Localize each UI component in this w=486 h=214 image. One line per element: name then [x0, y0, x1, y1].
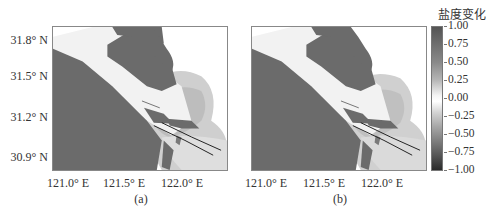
salinity-map-b: [252, 27, 426, 170]
y-tick-label: 31.8° N: [0, 33, 48, 48]
map-panel-b: [251, 26, 427, 171]
colorbar-tick: −0.25: [444, 109, 475, 121]
salinity-map-a: [53, 27, 227, 170]
y-tick-label: 31.5° N: [0, 69, 48, 84]
panel-caption-a: (a): [126, 192, 156, 207]
colorbar: [431, 26, 443, 171]
map-panel-a: [52, 26, 228, 171]
colorbar-tick: 0.00: [444, 91, 468, 103]
x-tick-label: 121.0° E: [236, 176, 296, 191]
x-tick-label: 122.0° E: [152, 176, 212, 191]
colorbar-tick: −1.00: [444, 163, 475, 175]
x-tick-label: 121.0° E: [38, 176, 98, 191]
y-tick-label: 31.2° N: [0, 110, 48, 125]
x-tick-label: 122.0° E: [352, 176, 412, 191]
colorbar-tick: −0.75: [444, 145, 475, 157]
colorbar-tick: 0.25: [444, 73, 468, 85]
x-tick-label: 121.5° E: [94, 176, 154, 191]
colorbar-tick: 0.75: [444, 37, 468, 49]
panel-caption-b: (b): [325, 192, 355, 207]
colorbar-tick: 1.00: [444, 19, 468, 31]
x-tick-label: 121.5° E: [294, 176, 354, 191]
colorbar-tick: 0.50: [444, 55, 468, 67]
colorbar-tick: −0.50: [444, 127, 475, 139]
y-tick-label: 30.9° N: [0, 150, 48, 165]
